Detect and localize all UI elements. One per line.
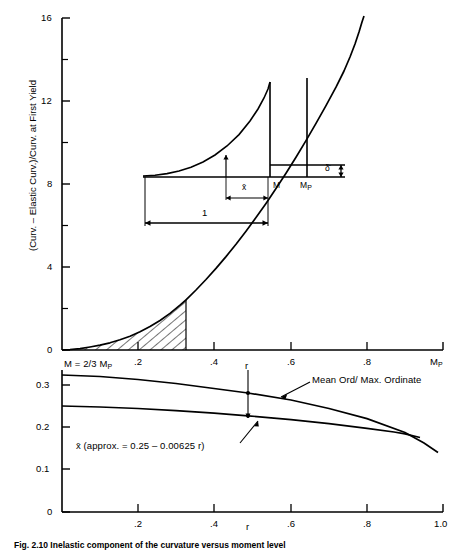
bottom-y-label-01: 0.1 <box>36 463 50 474</box>
label-mean-ordinate: Mean Ord/ Max. Ordinate <box>312 374 421 385</box>
leader-line-mean-ordinate <box>281 382 310 397</box>
figure-canvas <box>0 0 470 553</box>
top-x-label-06: .6 <box>287 356 295 367</box>
top-chart-curve <box>62 16 364 350</box>
top-chart <box>62 16 443 351</box>
inset-delta-arrow-up <box>338 165 343 170</box>
bottom-y-label-03: 0.3 <box>36 379 50 390</box>
inset-label-xbar: x̄ <box>242 182 246 192</box>
inset-span-arrow-left <box>145 220 151 226</box>
inset-delta-arrow-down <box>338 172 343 177</box>
inset-span-arrow-right <box>263 220 269 226</box>
inset-MP-sub: P <box>307 184 312 191</box>
bottom-x-label-06: .6 <box>287 518 295 529</box>
top-x-axis-var: r <box>245 360 248 371</box>
inset-xbar-dim-arrow-right <box>263 196 268 201</box>
top-x-label-08: .8 <box>363 356 371 367</box>
origin-label-text: M = 2/3 M <box>64 358 107 369</box>
top-chart-y-axis-label: (Curv. – Elastic Curv.)/Curv. at First Y… <box>27 66 38 266</box>
inset-label-delta: δ̄ <box>325 163 330 173</box>
origin-label-sub: P <box>107 363 112 370</box>
top-y-label-12: 12 <box>41 95 52 106</box>
end-label-sub: P <box>438 361 443 368</box>
top-y-label-8: 8 <box>47 178 52 189</box>
hatched-region <box>62 290 187 351</box>
inset-xbar-arrow-up <box>223 155 228 160</box>
inset-label-M: M <box>273 180 280 190</box>
label-xbar-formula: x̄ (approx. = 0.25 – 0.00625 r) <box>76 440 204 451</box>
end-label-text: M <box>430 356 438 367</box>
marker-mean-ordinate <box>246 391 250 395</box>
inset-curve <box>143 82 270 176</box>
top-x-end-label: MP <box>430 356 443 368</box>
top-y-label-16: 16 <box>41 12 52 23</box>
figure-caption: Fig. 2.10 Inelastic component of the cur… <box>14 540 458 551</box>
marker-xbar <box>246 414 250 418</box>
top-y-label-4: 4 <box>47 261 52 272</box>
bottom-x-label-10: 1.0 <box>434 518 448 529</box>
top-x-label-02: .2 <box>134 356 142 367</box>
top-x-label-04: .4 <box>210 356 218 367</box>
inset-diagram <box>143 78 345 226</box>
inset-label-span: 1 <box>202 207 207 218</box>
bottom-x-label-02: .2 <box>134 518 142 529</box>
leader-arrow-xbar <box>254 421 259 427</box>
bottom-y-label-02: 0.2 <box>36 421 50 432</box>
bottom-x-axis-var: r <box>246 521 249 532</box>
top-x-origin-label: M = 2/3 MP <box>64 358 112 370</box>
inset-label-MP: MP <box>300 180 312 191</box>
leader-line-xbar <box>240 421 258 443</box>
bottom-x-label-04: .4 <box>210 518 218 529</box>
bottom-y-label-0: 0 <box>47 506 52 517</box>
top-y-label-0: 0 <box>47 344 52 355</box>
inset-xbar-dim-arrow-left <box>226 196 231 201</box>
bottom-x-label-08: .8 <box>363 518 371 529</box>
bottom-curve-xbar <box>62 406 420 438</box>
